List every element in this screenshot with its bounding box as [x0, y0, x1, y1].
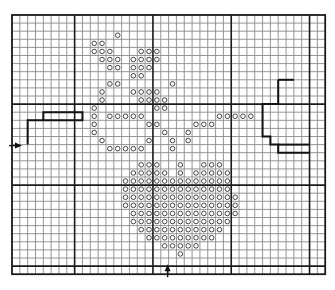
stitch-circle [100, 41, 105, 46]
stitch-circle [186, 219, 191, 224]
stitch-circle [139, 179, 144, 184]
stitch-circle [186, 195, 191, 200]
stitch-circle [186, 138, 191, 143]
stitch-circle [178, 163, 183, 168]
stitch-circle [186, 235, 191, 240]
stitch-circle [217, 203, 222, 208]
stitch-circle [155, 227, 160, 232]
stitch-circle [225, 195, 230, 200]
stitch-circle [202, 122, 207, 127]
stitch-circle [209, 179, 214, 184]
stitch-circle [147, 211, 152, 216]
stitch-circle [139, 219, 144, 224]
stitch-circle [186, 244, 191, 249]
stitch-circle [115, 65, 120, 70]
stitch-circle [131, 73, 136, 78]
stitch-circle [225, 203, 230, 208]
stitch-circle [162, 171, 167, 176]
stitch-circle [123, 146, 128, 151]
stitch-circle [202, 163, 207, 168]
stitch-circle [170, 146, 175, 151]
stitch-circle [170, 219, 175, 224]
stitch-circle [194, 122, 199, 127]
stitch-circle [123, 203, 128, 208]
stitch-circle [178, 235, 183, 240]
stitch-circle [233, 114, 238, 119]
arrow-up-icon [165, 264, 171, 271]
stitch-circle [147, 179, 152, 184]
stitch-circle [225, 187, 230, 192]
stitch-circle [186, 130, 191, 135]
stitch-circle [225, 171, 230, 176]
stitch-circle [178, 171, 183, 176]
stitch-circle [139, 171, 144, 176]
stitch-circle [202, 171, 207, 176]
stitch-circle [209, 203, 214, 208]
stitch-circle [249, 114, 254, 119]
stitch-circle [131, 146, 136, 151]
stitch-circle [147, 57, 152, 62]
stitch-circle [178, 219, 183, 224]
stitch-circle [170, 244, 175, 249]
stitch-circle [123, 195, 128, 200]
stitch-circle [131, 211, 136, 216]
stitch-circle [155, 98, 160, 103]
stitch-circle [155, 122, 160, 127]
stitch-circle [194, 179, 199, 184]
stitch-circle [131, 90, 136, 95]
stitch-circle [194, 171, 199, 176]
stitch-circle [217, 171, 222, 176]
stitch-circle [178, 187, 183, 192]
stitch-circle [162, 203, 167, 208]
stitch-circle [147, 219, 152, 224]
stitch-circle [147, 203, 152, 208]
stitch-circle [162, 130, 167, 135]
stitch-circle [186, 179, 191, 184]
stitch-circle [147, 227, 152, 232]
stitch-circle [194, 219, 199, 224]
stitch-circle [170, 235, 175, 240]
stitch-circle [178, 227, 183, 232]
stitch-circle [217, 114, 222, 119]
stitch-circle [139, 203, 144, 208]
stitch-circle [147, 98, 152, 103]
stitch-circle [131, 171, 136, 176]
stitch-circle [155, 171, 160, 176]
stitch-circle [170, 227, 175, 232]
stitch-circle [186, 203, 191, 208]
stitch-circle [186, 187, 191, 192]
stitch-circle [209, 122, 214, 127]
stitch-circle [170, 179, 175, 184]
stitch-circle [131, 195, 136, 200]
stitch-circle [162, 227, 167, 232]
stitch-circle [194, 211, 199, 216]
stitch-circle [217, 179, 222, 184]
stitch-circle [155, 187, 160, 192]
stitch-circle [178, 203, 183, 208]
stitch-circle [92, 122, 97, 127]
stitch-circle [139, 187, 144, 192]
stitch-circle [178, 195, 183, 200]
stitch-circle [217, 195, 222, 200]
stitch-circle [147, 195, 152, 200]
stitch-circle [147, 187, 152, 192]
stitch-circle [202, 235, 207, 240]
stitch-circle [217, 227, 222, 232]
stitch-circle [225, 179, 230, 184]
stitch-circle [131, 57, 136, 62]
stitch-circle [92, 106, 97, 111]
stitch-circle [194, 187, 199, 192]
stitch-circle [115, 57, 120, 62]
stitch-circle [178, 179, 183, 184]
stitch-circle [155, 219, 160, 224]
stitch-circle [209, 219, 214, 224]
stitch-circle [139, 163, 144, 168]
stitch-circle [170, 211, 175, 216]
stitch-circle [155, 49, 160, 54]
stitch-circle [155, 163, 160, 168]
stitch-circle [131, 179, 136, 184]
stitch-circle [162, 195, 167, 200]
stitch-circle [123, 179, 128, 184]
stitch-circle [170, 203, 175, 208]
stitch-circle [155, 195, 160, 200]
